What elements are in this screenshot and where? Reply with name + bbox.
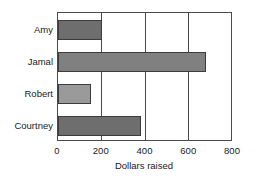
xtick-600: 600 bbox=[168, 146, 208, 156]
xtick-200: 200 bbox=[81, 146, 121, 156]
ylabel-robert: Robert bbox=[1, 89, 53, 99]
ylabel-amy: Amy bbox=[1, 25, 53, 35]
bar-slot-robert bbox=[58, 84, 233, 104]
bar-robert[interactable] bbox=[58, 84, 91, 104]
xtick-400: 400 bbox=[125, 146, 165, 156]
bar-jamal[interactable] bbox=[58, 52, 206, 72]
xtick-0: 0 bbox=[37, 146, 77, 156]
bar-slot-amy bbox=[58, 20, 233, 40]
bar-amy[interactable] bbox=[58, 20, 102, 40]
bar-courtney[interactable] bbox=[58, 116, 141, 136]
ylabel-jamal: Jamal bbox=[1, 57, 53, 67]
bar-slot-courtney bbox=[58, 116, 233, 136]
ylabel-courtney: Courtney bbox=[1, 121, 53, 131]
bar-slot-jamal bbox=[58, 52, 233, 72]
xaxis-title: Dollars raised bbox=[0, 160, 256, 171]
bar-chart: Amy Jamal Robert Courtney 0 200 400 600 … bbox=[0, 0, 256, 182]
xtick-800: 800 bbox=[212, 146, 252, 156]
